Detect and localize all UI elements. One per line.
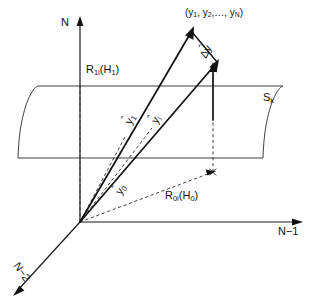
region-upper-paren-close: ) — [116, 63, 120, 75]
axis-n-arrowhead — [77, 16, 84, 26]
region-lower-paren-open: (H — [179, 189, 191, 201]
dashed-ray-i — [80, 128, 152, 222]
region-lower-main: R — [165, 189, 173, 201]
surface-sheet — [18, 86, 283, 158]
axis-n2-arrowhead — [13, 286, 24, 296]
axis-group — [13, 16, 303, 296]
point-coordinates-label: (y1, y2,…, yN) — [185, 8, 243, 18]
point-comma-1: , y — [197, 7, 208, 18]
point-close: ) — [240, 7, 243, 18]
diagram-canvas — [0, 0, 324, 302]
axis-n-minus-1-label: N−1 — [278, 226, 299, 237]
point-comma-2: ,…, y — [211, 7, 234, 18]
axis-n-label: N — [61, 17, 69, 28]
region-lower-label: R0i(H0) — [165, 190, 198, 201]
region-lower-paren-close: ) — [195, 189, 199, 201]
region-upper-label: R1i(H1) — [86, 64, 119, 75]
figure-container: (y1, y2,…, yN) N N−1 N−2 R1i(H1) R0i(H0)… — [0, 0, 324, 302]
surface-sub: k — [270, 96, 274, 105]
region-upper-paren-open: (H — [100, 63, 112, 75]
region-upper-main: R — [86, 63, 94, 75]
surface-left-edge — [18, 86, 38, 158]
surface-label: Sk — [263, 92, 274, 103]
